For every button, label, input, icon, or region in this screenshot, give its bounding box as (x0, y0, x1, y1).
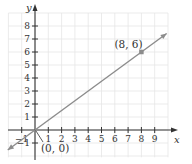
origin-label: (0, 0) (41, 142, 69, 154)
origin-leader-line (36, 131, 43, 142)
y-axis-label: y (25, 2, 32, 13)
y-axis (33, 4, 38, 160)
point-8-6-marker (139, 50, 144, 55)
x-tick-label: 5 (99, 134, 105, 144)
y-tick-label: 7 (24, 34, 30, 44)
y-tick-label: 4 (24, 73, 30, 83)
x-tick-label: 8 (139, 134, 145, 144)
coordinate-plane: −1123456789 −112345678 x y (8, 6) (0, 0) (0, 0, 192, 164)
y-tick-label: 1 (24, 112, 30, 122)
y-tick-label: 8 (24, 21, 30, 31)
y-tick-label: 3 (24, 86, 30, 96)
y-tick-label: 5 (24, 60, 30, 70)
x-tick-label: 4 (85, 134, 91, 144)
y-tick-label: −1 (17, 138, 30, 148)
y-tick-label: 6 (24, 47, 30, 57)
x-tick-label: 7 (125, 134, 131, 144)
x-tick-label: 3 (72, 134, 78, 144)
point-8-6-label: (8, 6) (114, 38, 142, 50)
x-tick-label: 6 (112, 134, 118, 144)
x-axis-label: x (174, 134, 180, 145)
x-axis-arrow-icon (171, 128, 178, 133)
x-tick-label: 9 (152, 134, 158, 144)
y-axis-arrow-icon (33, 4, 38, 11)
y-tick-label: 2 (24, 99, 30, 109)
